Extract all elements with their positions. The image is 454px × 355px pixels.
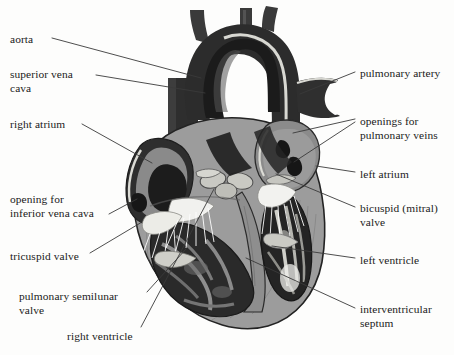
label-pulmonary-artery: pulmonary artery — [360, 67, 440, 81]
label-superior-vena-cava: superior venacava — [10, 68, 73, 95]
label-aorta: aorta — [10, 33, 33, 47]
label-opening-for-inferior-vena-cava: opening forinferior vena cava — [10, 193, 94, 220]
label-line: inferior vena cava — [10, 207, 94, 221]
label-line: right atrium — [10, 118, 65, 132]
label-line: tricuspid valve — [10, 250, 79, 264]
label-line: interventricular — [360, 303, 432, 317]
label-right-ventricle: right ventricle — [67, 330, 133, 344]
label-line: left ventricle — [360, 254, 419, 268]
label-line: superior vena — [10, 68, 73, 82]
label-left-atrium: left atrium — [360, 168, 409, 182]
label-line: pulmonary semilunar — [19, 290, 118, 304]
label-line: bicuspid (mitral) — [360, 202, 438, 216]
label-line: left atrium — [360, 168, 409, 182]
label-tricuspid-valve: tricuspid valve — [10, 250, 79, 264]
label-line: aorta — [10, 33, 33, 47]
label-line: valve — [19, 304, 118, 318]
label-line: pulmonary veins — [360, 129, 438, 143]
label-line: septum — [360, 317, 432, 331]
label-line: opening for — [10, 193, 94, 207]
label-left-ventricle: left ventricle — [360, 254, 419, 268]
label-right-atrium: right atrium — [10, 118, 65, 132]
label-pulmonary-semilunar-valve: pulmonary semilunarvalve — [19, 290, 118, 317]
label-line: valve — [360, 216, 438, 230]
label-openings-for-pulmonary-veins: openings forpulmonary veins — [360, 115, 438, 142]
label-line: openings for — [360, 115, 438, 129]
branch-highlight — [243, 10, 246, 26]
label-line: cava — [10, 82, 73, 96]
label-bicuspid-mitral-valve: bicuspid (mitral)valve — [360, 202, 438, 229]
label-interventricular-septum: interventricularseptum — [360, 303, 432, 330]
label-line: right ventricle — [67, 330, 133, 344]
label-line: pulmonary artery — [360, 67, 440, 81]
